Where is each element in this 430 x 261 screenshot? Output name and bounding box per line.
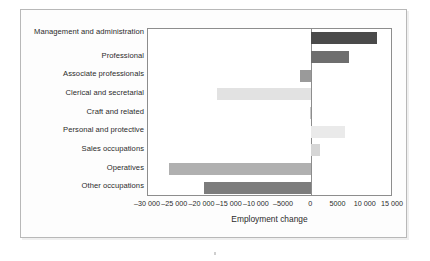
category-axis-labels: Management and administrationProfessiona… bbox=[26, 26, 144, 196]
bar bbox=[311, 51, 349, 63]
x-tick-label: –25 000 bbox=[161, 199, 187, 209]
bar bbox=[311, 126, 345, 138]
x-tick-label: –20 000 bbox=[188, 199, 214, 209]
category-label: Other occupations bbox=[26, 182, 144, 191]
bar bbox=[217, 88, 311, 100]
x-tick-label: –5000 bbox=[273, 199, 293, 209]
bar bbox=[204, 182, 312, 194]
x-tick-label: –15 000 bbox=[216, 199, 242, 209]
x-tick-label: 10 000 bbox=[354, 199, 376, 209]
category-label: Management and administration bbox=[26, 28, 144, 37]
scan-speck bbox=[214, 252, 216, 255]
category-label: Craft and related bbox=[26, 108, 144, 117]
x-axis-tick-labels: –30 000–25 000–20 000–15 000–10 000–5000… bbox=[147, 199, 392, 211]
bar bbox=[311, 144, 320, 156]
category-label: Professional bbox=[26, 52, 144, 61]
x-tick-label: 15 000 bbox=[381, 199, 403, 209]
bar bbox=[311, 32, 377, 44]
bar bbox=[310, 107, 311, 119]
x-tick-label: 0 bbox=[308, 199, 312, 209]
x-axis-title: Employment change bbox=[147, 214, 392, 224]
plot-area bbox=[147, 28, 392, 196]
bar bbox=[169, 163, 312, 175]
category-label: Operatives bbox=[26, 164, 144, 173]
category-label: Clerical and secretarial bbox=[26, 89, 144, 98]
bar bbox=[300, 70, 311, 82]
chart-figure: Management and administrationProfessiona… bbox=[0, 0, 430, 261]
x-tick-label: 5000 bbox=[330, 199, 346, 209]
x-tick-label: –10 000 bbox=[243, 199, 269, 209]
category-label: Associate professionals bbox=[26, 70, 144, 79]
category-label: Personal and protective bbox=[26, 126, 144, 135]
plot-inner bbox=[148, 29, 391, 195]
x-tick-label: –30 000 bbox=[134, 199, 160, 209]
category-label: Sales occupations bbox=[26, 145, 144, 154]
